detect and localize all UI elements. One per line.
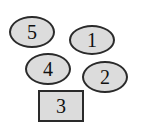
ellipse-2: 2 (82, 61, 128, 93)
shape-label: 1 (87, 30, 97, 50)
shape-label: 4 (43, 59, 53, 79)
shape-label: 3 (56, 96, 66, 116)
ellipse-1: 1 (69, 25, 115, 55)
shape-label: 5 (27, 22, 37, 42)
ellipse-5: 5 (9, 16, 55, 48)
shape-label: 2 (100, 67, 110, 87)
ellipse-4: 4 (25, 53, 71, 85)
rectangle-3: 3 (38, 90, 84, 122)
